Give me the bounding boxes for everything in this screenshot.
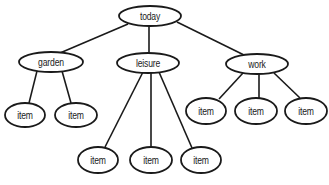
item-node-label: item [143, 154, 159, 165]
edge-today-to-work [177, 22, 244, 55]
item-node-label: item [248, 105, 264, 116]
root-node-label: today [140, 10, 160, 21]
edge-garden-to-item [29, 71, 37, 103]
edge-garden-to-item [62, 71, 71, 103]
item-node-label: item [198, 105, 214, 116]
item-node-label: item [68, 109, 84, 120]
edge-work-to-item [219, 73, 243, 99]
item-node-label: item [193, 154, 209, 165]
edge-leisure-to-item [105, 72, 143, 147]
category-node-work-label: work [248, 58, 265, 69]
edge-today-to-garden [60, 24, 128, 53]
edge-work-to-item [274, 73, 300, 98]
category-node-leisure-label: leisure [136, 57, 160, 68]
item-node-label: item [298, 105, 314, 116]
item-node-label: item [90, 154, 106, 165]
diagram-edges [0, 0, 329, 185]
mind-map-diagram: todaygardenitemitemleisureitemitemitemwo… [0, 0, 329, 185]
category-node-garden-label: garden [38, 56, 64, 67]
item-node-label: item [17, 109, 33, 120]
